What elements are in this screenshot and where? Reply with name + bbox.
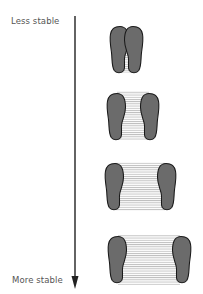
stability-arrow <box>72 16 79 289</box>
stance-feet-apart <box>105 162 176 211</box>
stance-feet-together <box>110 26 143 73</box>
stability-diagram <box>0 0 203 294</box>
stance-feet-slightly-apart <box>107 91 159 140</box>
stance-feet-wide-apart <box>108 235 191 285</box>
